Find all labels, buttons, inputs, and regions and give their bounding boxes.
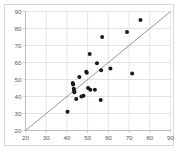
y-tick-label: 50 xyxy=(15,76,22,83)
data-point xyxy=(85,71,89,75)
plot-root: 20304050607080902030405060708090 xyxy=(15,8,175,141)
y-tick-label: 90 xyxy=(15,8,22,15)
y-tick-label: 80 xyxy=(15,25,22,32)
x-tick-label: 50 xyxy=(84,134,91,141)
data-point xyxy=(99,68,103,72)
scatter-chart-figure: 20304050607080902030405060708090 xyxy=(0,0,178,150)
data-point xyxy=(100,35,104,39)
data-point xyxy=(74,97,78,101)
data-point xyxy=(125,30,129,34)
x-tick-label: 80 xyxy=(146,134,153,141)
data-point xyxy=(82,94,86,98)
data-point xyxy=(95,61,99,65)
data-point xyxy=(71,83,75,87)
data-point xyxy=(93,88,97,92)
data-point xyxy=(108,66,112,70)
x-tick-label: 70 xyxy=(126,134,133,141)
data-point xyxy=(130,72,134,76)
y-tick-label: 70 xyxy=(15,42,22,49)
x-tick-label: 30 xyxy=(43,134,50,141)
scatter-plot-canvas: 20304050607080902030405060708090 xyxy=(0,0,178,150)
y-tick-label: 40 xyxy=(15,93,22,100)
data-point xyxy=(88,52,92,56)
x-tick-label: 20 xyxy=(22,134,29,141)
data-point xyxy=(77,75,81,79)
y-tick-label: 20 xyxy=(15,127,22,134)
data-point xyxy=(66,110,70,114)
data-point xyxy=(99,98,103,102)
data-point xyxy=(88,88,92,92)
y-tick-label: 60 xyxy=(15,59,22,66)
x-tick-label: 60 xyxy=(105,134,112,141)
y-tick-label: 30 xyxy=(15,110,22,117)
x-tick-label: 40 xyxy=(63,134,70,141)
x-tick-label: 90 xyxy=(167,134,174,141)
data-point xyxy=(72,90,76,94)
data-point xyxy=(138,18,142,22)
